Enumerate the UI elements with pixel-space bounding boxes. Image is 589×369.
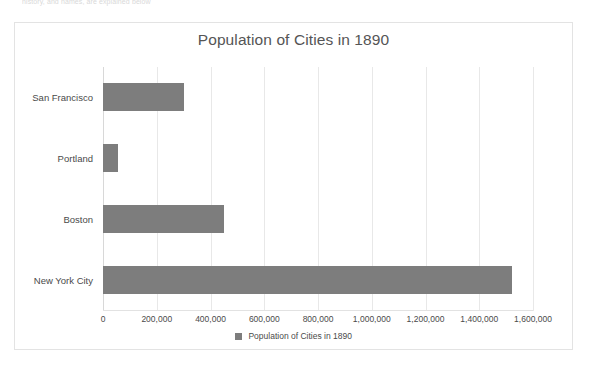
bar-row [103, 128, 533, 189]
x-axis-tick-label: 1,000,000 [353, 314, 391, 324]
bar [103, 205, 224, 233]
bar-series [103, 67, 533, 311]
bar [103, 266, 512, 294]
bar-row [103, 67, 533, 128]
y-axis-category-label: Portland [58, 128, 93, 189]
bar-row [103, 189, 533, 250]
y-axis-category-labels: San FranciscoPortlandBostonNew York City [15, 67, 99, 311]
bar-row [103, 250, 533, 311]
y-axis-category-label: New York City [34, 250, 93, 311]
plot-area [103, 67, 533, 311]
x-axis-tick-label: 1,600,000 [514, 314, 552, 324]
chart-container: Population of Cities in 1890 San Francis… [14, 22, 573, 350]
bar [103, 83, 184, 111]
chart-title: Population of Cities in 1890 [15, 31, 572, 49]
bar [103, 144, 118, 172]
x-axis-tick-label: 200,000 [141, 314, 172, 324]
page-cutoff-text: history, and names, are explained below [22, 0, 151, 6]
legend-label: Population of Cities in 1890 [248, 331, 352, 341]
y-axis-category-label: Boston [63, 189, 93, 250]
chart-legend: Population of Cities in 1890 [15, 331, 572, 341]
x-axis-tick-label: 1,200,000 [407, 314, 445, 324]
x-axis-tick-label: 600,000 [249, 314, 280, 324]
x-axis-tick-label: 0 [101, 314, 106, 324]
legend-color-swatch [235, 333, 242, 340]
x-axis-tick-label: 1,400,000 [460, 314, 498, 324]
x-axis-tick-label: 800,000 [303, 314, 334, 324]
gridline [533, 67, 534, 311]
x-axis-tick-labels: 0200,000400,000600,000800,0001,000,0001,… [103, 314, 533, 328]
y-axis-category-label: San Francisco [32, 67, 93, 128]
x-axis-tick-label: 400,000 [195, 314, 226, 324]
